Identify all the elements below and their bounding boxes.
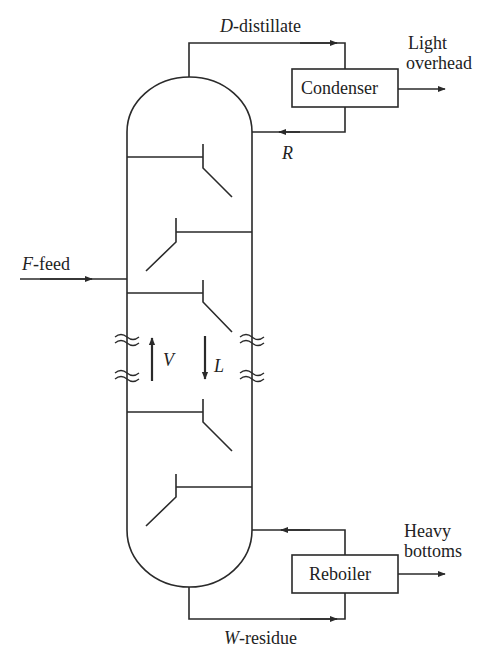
tray-1 — [127, 144, 232, 197]
condenser-label: Condenser — [301, 78, 378, 98]
reflux-label: R — [282, 143, 293, 163]
tray-2 — [146, 218, 252, 271]
distillate-line — [189, 43, 345, 77]
liquid-label: L — [214, 356, 224, 376]
vapor-label: V — [163, 350, 174, 370]
residue-line — [189, 587, 345, 619]
tray-5 — [146, 474, 252, 526]
tray-4 — [127, 399, 232, 451]
column-shell — [127, 77, 252, 587]
reflux-line — [252, 107, 345, 132]
feed-label: F-feed — [22, 254, 70, 274]
break-marks — [115, 335, 264, 382]
residue-label: W-residue — [224, 628, 297, 648]
reboiler-vapor-return-line — [252, 530, 345, 555]
heavy-bottoms-label: Heavybottoms — [404, 521, 462, 561]
diagram-canvas — [0, 0, 491, 662]
light-overhead-label: Lightoverhead — [408, 33, 472, 73]
distillate-label: D-distillate — [220, 16, 301, 36]
reboiler-label: Reboiler — [309, 564, 371, 584]
tray-3 — [127, 280, 232, 332]
distillation-diagram: D-distillate Lightoverhead Condenser R F… — [0, 0, 491, 662]
